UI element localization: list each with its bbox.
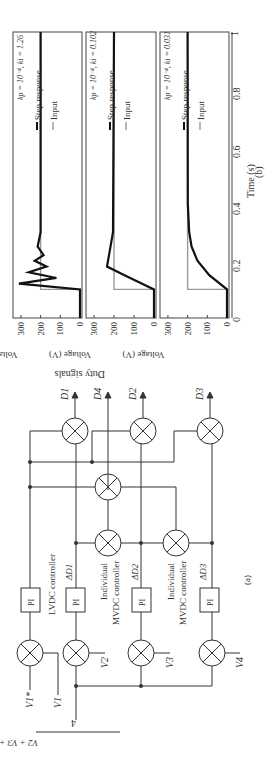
svg-text:0: 0 [149,322,159,327]
svg-text:100: 100 [129,322,139,336]
ylabel: Voltage (V) [49,350,91,360]
input-v1: V1 [52,697,63,708]
plot-panel-3: 0100200300Voltage (V)Step responseInputk… [122,31,232,360]
svg-text:300: 300 [16,322,26,336]
figure-canvas: 0100200300Voltage (V)Step responseInputk… [0,0,267,764]
mvdc-controller-label-1a: Individual [99,563,109,600]
svg-text:Step response: Step response [106,70,116,120]
time-axis: 1 0.8 0.6 0.4 0.2 0 Time (s) (b) [229,31,265,322]
plot-annotation: kp = 10⁻⁴, ki = 0.102 [89,31,98,100]
svg-text:300: 300 [89,322,99,336]
part-b-label: (b) [253,166,265,178]
outputs [72,392,213,490]
part-a-label: (a) [242,575,252,585]
svg-text:300: 300 [163,322,173,336]
tick-1: 1 [229,31,240,36]
tick-0.2: 0.2 [231,260,242,273]
tick-0: 0 [231,317,242,322]
input-v3: V3 [164,657,175,668]
plot-annotation: kp = 10⁻⁴, ki = 1.26 [16,35,25,100]
input-v4: V4 [234,657,245,668]
delta-d3: ΔD3 [198,563,208,581]
avg-numerator: V2 + V3 + V4 + V5 [0,738,38,748]
delta-d2: ΔD2 [130,563,140,581]
svg-text:100: 100 [202,322,212,336]
ylabel: Voltage (V) [0,350,18,360]
svg-text:Step response: Step response [180,70,190,120]
ylabel: Voltage (V) [122,350,164,360]
svg-text:Step response: Step response [33,70,43,120]
step-response-plots: 0100200300Voltage (V)Step responseInputk… [0,31,232,360]
svg-text:0: 0 [75,322,85,327]
tick-0.4: 0.4 [231,203,242,216]
pi-label-1: PI [27,599,36,606]
pi-label-3: PI [138,599,147,606]
output-d2: D2 [127,388,138,401]
series-step-response [19,32,80,318]
mvdc-controller-label-2a: Individual [166,563,176,600]
series-input [188,32,227,318]
mvdc-controller-label-2b: MVDC controller [178,561,188,625]
svg-text:200: 200 [109,322,119,336]
plot-panel-2: 0100200300Voltage (V)Step responseInputk… [49,31,159,360]
pi-label-4: PI [206,599,215,606]
series-input [114,32,154,318]
svg-text:100: 100 [55,322,65,336]
output-d3: D3 [194,388,205,401]
lvdc-controller-label: LVDC controller [47,554,57,615]
series-step-response [188,32,227,318]
input-v2: V2 [99,657,110,668]
svg-text:Input: Input [49,101,59,120]
output-d4: D4 [92,388,103,401]
svg-text:200: 200 [36,322,46,336]
duty-signals-label: Duty signals [55,369,105,380]
tick-0.8: 0.8 [231,88,242,101]
tick-0.6: 0.6 [231,146,242,159]
plot-annotation: kp = 10⁻⁴, ki = 0.031 [163,31,172,100]
diagram-labels: Duty signals D1 D4 D2 D3 LVDC controller… [0,369,252,748]
output-summers [62,418,223,444]
svg-text:Input: Input [196,101,206,120]
pi-label-2: PI [72,599,81,606]
delta-d1: ΔD1 [64,564,74,581]
output-d1: D1 [59,388,70,401]
avg-denominator: 4 [71,718,76,729]
plot-panel-1: 0100200300Voltage (V)Step responseInputk… [0,32,85,360]
mvdc-controller-label-1b: MVDC controller [111,561,121,625]
input-v1-star: V1* [24,692,35,708]
svg-text:Input: Input [122,101,132,120]
svg-text:200: 200 [183,322,193,336]
